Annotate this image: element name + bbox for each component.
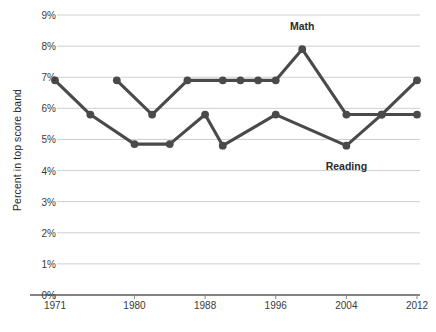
data-point-reading-5 [219, 142, 227, 150]
data-point-math-8 [342, 111, 350, 119]
y-tick-label: 7% [28, 72, 56, 83]
y-tick-label: 8% [28, 41, 56, 52]
y-tick-label: 1% [28, 258, 56, 269]
data-point-math-7 [298, 45, 306, 53]
plot-area [0, 0, 436, 332]
y-tick-label: 9% [28, 10, 56, 21]
data-point-math-2 [184, 76, 192, 84]
data-point-math-6 [272, 76, 280, 84]
data-point-reading-2 [131, 140, 139, 148]
series-line-math [117, 49, 417, 114]
chart-container: Percent in top score band 0%1%2%3%4%5%6%… [0, 0, 436, 332]
x-tick-label: 1971 [25, 300, 85, 311]
data-point-reading-8 [378, 111, 386, 119]
data-point-math-10 [413, 76, 421, 84]
data-point-math-4 [237, 76, 245, 84]
x-tick-label: 1988 [175, 300, 235, 311]
data-point-math-0 [113, 76, 121, 84]
series-line-reading [55, 80, 417, 145]
data-point-reading-7 [342, 142, 350, 150]
y-tick-label: 0% [28, 290, 56, 301]
data-point-reading-3 [166, 140, 174, 148]
y-tick-label: 6% [28, 103, 56, 114]
y-tick-label: 3% [28, 196, 56, 207]
data-point-reading-4 [201, 111, 209, 119]
y-tick-label: 5% [28, 134, 56, 145]
data-point-reading-9 [413, 111, 421, 119]
y-tick-label: 2% [28, 227, 56, 238]
data-point-math-1 [148, 111, 156, 119]
x-tick-label: 2004 [316, 300, 376, 311]
series-label-reading: Reading [326, 160, 367, 172]
series-label-math: Math [290, 20, 315, 32]
data-point-math-3 [219, 76, 227, 84]
data-point-reading-1 [86, 111, 94, 119]
data-point-reading-6 [272, 111, 280, 119]
x-tick-label: 1980 [104, 300, 164, 311]
x-tick-label: 1996 [246, 300, 306, 311]
data-point-math-5 [254, 76, 262, 84]
y-tick-label: 4% [28, 165, 56, 176]
x-tick-label: 2012 [387, 300, 436, 311]
